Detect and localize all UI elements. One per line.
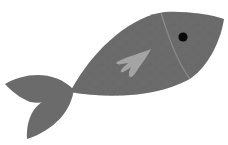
eye-icon xyxy=(178,32,187,41)
fish-illustration xyxy=(0,0,228,145)
tail xyxy=(5,75,74,139)
